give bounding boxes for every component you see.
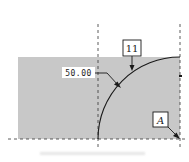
dimension-label: 50.00	[65, 69, 92, 78]
edge-tick	[179, 75, 182, 77]
callout-number: 11	[126, 43, 139, 54]
datum-label: A	[156, 115, 164, 126]
drawing-canvas: 50.00 11 A	[0, 0, 189, 162]
illegible-caption	[40, 152, 145, 155]
